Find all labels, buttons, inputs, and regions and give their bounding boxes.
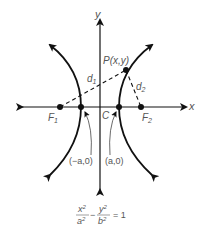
svg-text:b2: b2 <box>98 216 107 226</box>
svg-text:x2: x2 <box>77 204 87 214</box>
vertex-left-pointer <box>85 112 91 155</box>
vertex-right-label: (a,0) <box>105 156 124 166</box>
vertex-left-point <box>78 104 84 110</box>
diagram-canvas: y x P(x,y) d1 d2 F1 F2 C (−a,0) (a,0) x2… <box>0 0 203 230</box>
svg-text:−: − <box>90 210 95 220</box>
point-p <box>123 67 129 73</box>
center-c-label: C <box>102 110 110 121</box>
hyperbola-equation: x2 a2 − y2 b2 = 1 <box>76 204 126 226</box>
svg-text:y2: y2 <box>98 204 108 214</box>
distance-d1-label: d1 <box>87 73 97 85</box>
y-axis-label: y <box>94 8 102 20</box>
vertex-right-point <box>116 104 122 110</box>
svg-text:a2: a2 <box>77 216 86 226</box>
x-axis-label: x <box>188 100 195 112</box>
vertex-right-pointer <box>110 112 116 155</box>
svg-text:= 1: = 1 <box>113 210 126 220</box>
point-p-label: P(x,y) <box>103 55 129 66</box>
distance-line-d1 <box>60 70 126 107</box>
focus-f1-point <box>57 104 63 110</box>
hyperbola-diagram: y x P(x,y) d1 d2 F1 F2 C (−a,0) (a,0) x2… <box>0 0 203 230</box>
focus-f2-label: F2 <box>142 112 152 124</box>
focus-f1-label: F1 <box>48 112 58 124</box>
vertex-left-label: (−a,0) <box>69 156 93 166</box>
distance-d2-label: d2 <box>136 81 146 93</box>
focus-f2-point <box>138 104 144 110</box>
